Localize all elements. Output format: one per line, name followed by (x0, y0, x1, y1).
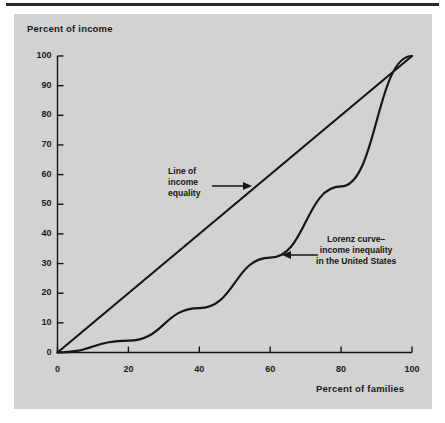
x-axis-tick-label: 0 (43, 364, 73, 374)
figure-panel (14, 14, 432, 409)
y-axis-tick-label: 50 (24, 198, 52, 208)
y-axis-tick-label: 10 (24, 317, 52, 327)
y-axis-tick-label: 80 (24, 109, 52, 119)
y-axis-tick-label: 70 (24, 139, 52, 149)
annotation-lorenz-curve: Lorenz curve– income inequality in the U… (316, 234, 396, 267)
x-axis-tick-label: 60 (255, 364, 285, 374)
y-axis-tick-label: 90 (24, 80, 52, 90)
y-axis-tick-label: 100 (24, 50, 52, 60)
x-axis-tick-label: 40 (184, 364, 214, 374)
annotation-equality-line1: Line of (168, 166, 200, 177)
y-axis-tick-label: 30 (24, 258, 52, 268)
x-axis-tick-label: 20 (113, 364, 143, 374)
y-axis-tick-label: 20 (24, 287, 52, 297)
x-axis-title: Percent of families (316, 383, 404, 394)
y-axis-title: Percent of income (27, 23, 113, 34)
annotation-lorenz-line1: Lorenz curve– (316, 234, 396, 245)
x-axis-tick-label: 80 (326, 364, 356, 374)
annotation-line-of-equality: Line of income equality (168, 166, 200, 199)
annotation-equality-line2: income (168, 177, 200, 188)
y-axis-tick-label: 0 (24, 347, 52, 357)
annotation-equality-line3: equality (168, 188, 200, 199)
annotation-lorenz-line3: in the United States (316, 256, 396, 267)
x-axis-tick-label: 100 (397, 364, 427, 374)
y-axis-tick-label: 40 (24, 228, 52, 238)
top-divider-rule (6, 3, 439, 6)
y-axis-tick-label: 60 (24, 169, 52, 179)
annotation-lorenz-line2: income inequality (316, 245, 396, 256)
